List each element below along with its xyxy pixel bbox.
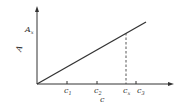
- x-axis-label: c: [100, 95, 105, 104]
- tick-label-cx: cx: [123, 86, 130, 96]
- calibration-line: [37, 22, 146, 84]
- y-axis-label: A: [14, 44, 25, 53]
- x-axis-arrow-icon: [168, 82, 174, 86]
- y-marker-label: Ax: [24, 25, 34, 35]
- tick-label-c1: c1: [64, 86, 72, 96]
- y-axis-arrow-icon: [35, 6, 39, 12]
- calibration-chart: c1 c2 cx c3 c Ax A: [0, 0, 184, 108]
- tick-label-c3: c3: [137, 86, 145, 96]
